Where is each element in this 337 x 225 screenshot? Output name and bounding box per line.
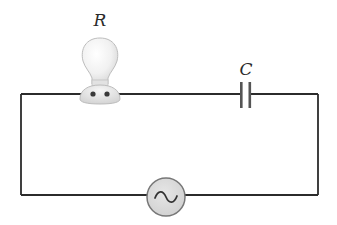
capacitor-icon <box>240 82 251 108</box>
ac-source-icon <box>147 178 185 216</box>
resistor-label: R <box>93 10 107 30</box>
circuit-diagram: R C <box>0 0 337 225</box>
light-bulb-icon <box>80 38 120 104</box>
capacitor-label: C <box>239 59 252 79</box>
